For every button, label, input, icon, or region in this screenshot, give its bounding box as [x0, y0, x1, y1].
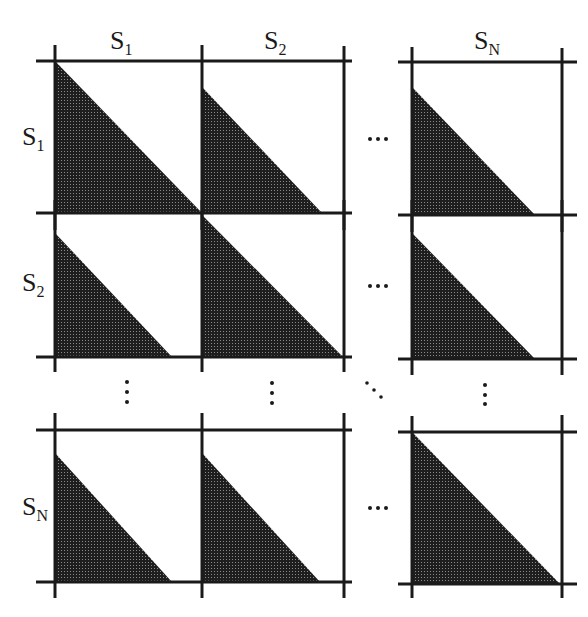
- row-header-sn: SN: [22, 494, 48, 524]
- header-base: S: [22, 122, 36, 151]
- horizontal-ellipsis-icon: [368, 137, 388, 510]
- header-sub: 2: [36, 283, 44, 300]
- cell-s1-s1-triangle: [55, 61, 202, 213]
- row-header-s1: S1: [22, 124, 44, 154]
- header-base: S: [22, 492, 36, 521]
- vertical-ellipsis-icon: [125, 380, 487, 406]
- row-header-s2: S2: [22, 270, 44, 300]
- cell-sn-s1-triangle: [55, 453, 172, 582]
- header-sub: N: [36, 507, 48, 524]
- column-header-s1: S1: [110, 28, 132, 58]
- block-matrix-diagram: [0, 0, 588, 617]
- header-sub: N: [488, 41, 500, 58]
- cell-s1-s2-triangle: [202, 87, 322, 213]
- diagonal-ellipsis-icon: [365, 381, 383, 399]
- column-header-s2: S2: [264, 28, 286, 58]
- cell-sn-s2-triangle: [202, 453, 320, 582]
- cell-s2-s2-triangle: [202, 215, 343, 357]
- cell-s2-s1-triangle: [55, 233, 172, 357]
- header-base: S: [264, 26, 278, 55]
- header-sub: 2: [278, 41, 286, 58]
- column-header-sn: SN: [474, 28, 500, 58]
- header-base: S: [474, 26, 488, 55]
- cell-s1-sn-triangle: [412, 87, 535, 215]
- header-sub: 1: [36, 137, 44, 154]
- header-sub: 1: [124, 41, 132, 58]
- cell-s2-sn-triangle: [412, 233, 535, 359]
- header-base: S: [110, 26, 124, 55]
- header-base: S: [22, 268, 36, 297]
- cell-sn-sn-triangle: [412, 432, 560, 584]
